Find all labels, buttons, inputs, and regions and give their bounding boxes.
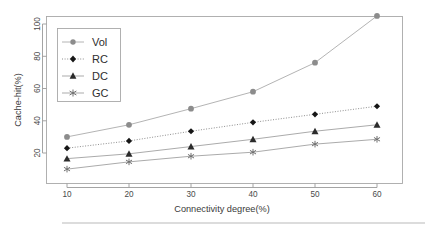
series-gc	[64, 136, 380, 172]
series-line-rc	[67, 106, 377, 148]
data-point-dc-60	[374, 121, 381, 127]
data-point-vol-20	[126, 122, 132, 128]
data-point-rc-20	[126, 138, 132, 144]
y-tick-label-100: 100	[33, 17, 42, 31]
chart-figure: 100 80 60 40 20 Cache-hit(%) 10 20 30 40…	[0, 0, 425, 231]
x-tick-label-60: 60	[372, 190, 382, 199]
data-point-rc-10	[64, 145, 70, 151]
legend-label-rc: RC	[92, 53, 108, 65]
data-point-vol-60	[374, 13, 380, 19]
series-line-gc	[67, 139, 377, 169]
legend-label-gc: GC	[92, 87, 109, 99]
x-tick-label-20: 20	[124, 190, 134, 199]
series-line-dc	[67, 125, 377, 159]
x-axis-ticks	[67, 184, 377, 188]
x-tick-label-30: 30	[186, 190, 196, 199]
x-axis-title: Connectivity degree(%)	[174, 204, 270, 214]
data-point-rc-50	[312, 111, 318, 117]
y-axis-title: Cache-hit(%)	[13, 73, 23, 127]
y-tick-label-60: 60	[33, 84, 42, 94]
data-point-rc-40	[250, 119, 256, 125]
x-tick-label-50: 50	[310, 190, 320, 199]
data-point-rc-60	[374, 103, 380, 109]
data-point-vol-40	[250, 89, 256, 95]
legend-label-vol: Vol	[92, 36, 107, 48]
y-tick-label-80: 80	[33, 51, 42, 61]
data-point-vol-30	[188, 106, 194, 112]
line-chart: 100 80 60 40 20 Cache-hit(%) 10 20 30 40…	[0, 0, 425, 231]
data-point-vol-50	[312, 60, 318, 66]
y-tick-label-40: 40	[33, 116, 42, 126]
x-tick-label-10: 10	[62, 190, 72, 199]
y-tick-label-20: 20	[33, 148, 42, 158]
data-point-rc-30	[188, 128, 194, 134]
legend-label-dc: DC	[92, 70, 108, 82]
legend-marker-circle-icon	[70, 39, 75, 44]
series-dc	[64, 121, 381, 161]
y-axis-ticks	[43, 24, 47, 153]
data-point-vol-10	[64, 134, 70, 140]
x-tick-label-40: 40	[248, 190, 258, 199]
series-rc	[64, 103, 380, 151]
chart-legend: Vol RC DC GC	[58, 29, 121, 102]
legend-frame	[58, 29, 121, 102]
